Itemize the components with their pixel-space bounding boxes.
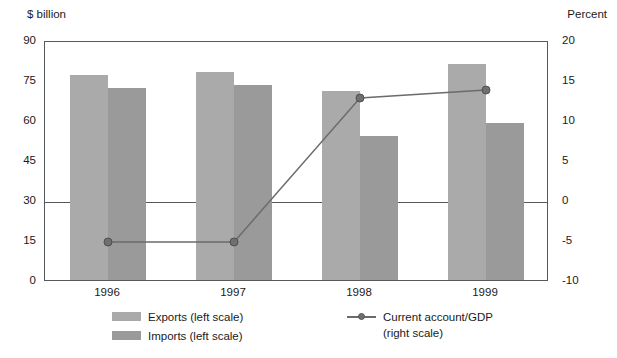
plot-area <box>44 41 548 281</box>
chart-legend: Exports (left scale) Imports (left scale… <box>0 308 617 356</box>
line-markers <box>104 86 490 246</box>
left-axis-tick-0: 0 <box>0 275 36 287</box>
right-axis-tick-20: 20 <box>562 35 602 47</box>
legend-label-current-account: Current account/GDP <box>383 311 493 323</box>
x-axis-tick-1999: 1999 <box>455 287 515 299</box>
left-axis-unit-label: $ billion <box>27 8 66 20</box>
left-axis-tick-60: 60 <box>0 115 36 127</box>
legend-item-exports: Exports (left scale) <box>112 308 243 325</box>
left-axis-tick-90: 90 <box>0 35 36 47</box>
right-axis-unit-label: Percent <box>567 8 607 20</box>
legend-label-imports: Imports (left scale) <box>148 330 243 342</box>
line-marker-1997 <box>230 238 238 246</box>
right-axis-tick-0: 0 <box>562 195 602 207</box>
line-marker-1998 <box>356 94 364 102</box>
left-axis-tick-45: 45 <box>0 155 36 167</box>
line-marker-icon <box>347 312 376 321</box>
legend-label-exports: Exports (left scale) <box>148 311 243 323</box>
chart-figure: $ billion Percent 0153045607590 -10-5051… <box>0 0 617 358</box>
x-axis-tick-1998: 1998 <box>329 287 389 299</box>
legend-item-imports: Imports (left scale) <box>112 327 243 344</box>
right-axis-tick-5: 5 <box>562 155 602 167</box>
left-axis-tick-75: 75 <box>0 75 36 87</box>
x-axis-tick-1997: 1997 <box>203 287 263 299</box>
right-axis-tick--5: -5 <box>562 235 602 247</box>
legend-bars-column: Exports (left scale) Imports (left scale… <box>112 308 243 346</box>
right-axis-tick-10: 10 <box>562 115 602 127</box>
x-axis-tick-1996: 1996 <box>77 287 137 299</box>
legend-item-current-account: Current account/GDP <box>347 308 493 325</box>
line-marker-1999 <box>482 86 490 94</box>
current-account-line-series <box>45 42 549 282</box>
left-axis-tick-15: 15 <box>0 235 36 247</box>
left-axis-tick-30: 30 <box>0 195 36 207</box>
right-axis-tick-15: 15 <box>562 75 602 87</box>
line-marker-1996 <box>104 238 112 246</box>
imports-swatch-icon <box>112 331 141 340</box>
legend-line-column: Current account/GDP (right scale) <box>347 308 493 339</box>
line-path <box>108 90 486 242</box>
legend-sublabel-right-scale: (right scale) <box>383 327 493 339</box>
exports-swatch-icon <box>112 312 141 321</box>
right-axis-tick--10: -10 <box>562 275 602 287</box>
